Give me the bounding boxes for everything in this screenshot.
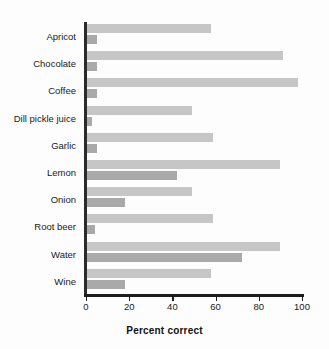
- bar-group: [86, 240, 302, 267]
- bar-upper: [86, 78, 298, 87]
- bar-group: [86, 22, 302, 49]
- bar-upper: [86, 187, 192, 196]
- bar-group: [86, 131, 302, 158]
- bar-group: [86, 158, 302, 185]
- bar-upper: [86, 214, 213, 223]
- bar-group: [86, 76, 302, 103]
- bar-rows: [86, 22, 302, 294]
- bar-group: [86, 185, 302, 212]
- category-label: Dill pickle juice: [0, 114, 76, 124]
- bar-upper: [86, 269, 211, 278]
- bar-upper: [86, 24, 211, 33]
- category-label: Root beer: [0, 222, 76, 232]
- bar-chart: ApricotChocolateCoffeeDill pickle juiceG…: [0, 0, 329, 349]
- bar-group: [86, 267, 302, 294]
- bar-lower: [86, 117, 92, 126]
- x-tick-label: 100: [294, 302, 310, 312]
- bar-lower: [86, 171, 177, 180]
- bar-group: [86, 49, 302, 76]
- category-label: Chocolate: [0, 59, 76, 69]
- y-axis-line: [84, 22, 87, 295]
- bar-lower: [86, 89, 97, 98]
- category-label: Lemon: [0, 168, 76, 178]
- bar-upper: [86, 242, 280, 251]
- bar-group: [86, 104, 302, 131]
- x-tick-label: 0: [83, 302, 88, 312]
- x-tick-label: 60: [210, 302, 221, 312]
- bar-lower: [86, 280, 125, 289]
- bar-group: [86, 212, 302, 239]
- bar-upper: [86, 133, 213, 142]
- category-label: Apricot: [0, 32, 76, 42]
- bar-lower: [86, 35, 97, 44]
- x-tick-label: 20: [124, 302, 135, 312]
- x-axis-title: Percent correct: [0, 325, 329, 336]
- bar-lower: [86, 198, 125, 207]
- bar-lower: [86, 144, 97, 153]
- bar-upper: [86, 51, 283, 60]
- x-tick-label: 40: [167, 302, 178, 312]
- plot-area: [86, 22, 302, 294]
- bar-lower: [86, 225, 95, 234]
- category-axis-labels: ApricotChocolateCoffeeDill pickle juiceG…: [0, 22, 80, 294]
- category-label: Coffee: [0, 86, 76, 96]
- bar-lower: [86, 62, 97, 71]
- bar-lower: [86, 253, 242, 262]
- bar-upper: [86, 160, 280, 169]
- bar-upper: [86, 106, 192, 115]
- category-label: Water: [0, 250, 76, 260]
- x-tick-label: 80: [254, 302, 265, 312]
- x-axis-ticks: 020406080100: [86, 297, 302, 319]
- category-label: Garlic: [0, 141, 76, 151]
- category-label: Onion: [0, 195, 76, 205]
- category-label: Wine: [0, 277, 76, 287]
